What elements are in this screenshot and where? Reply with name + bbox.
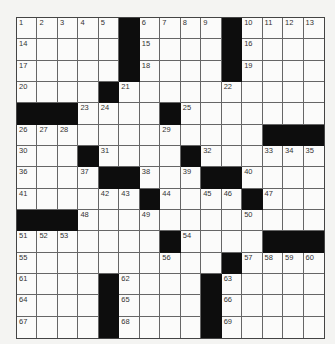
grid-cell[interactable]: 25 (181, 103, 201, 124)
grid-cell[interactable]: 24 (99, 103, 119, 124)
grid-cell[interactable]: 42 (99, 189, 119, 210)
grid-cell[interactable] (78, 317, 98, 338)
grid-cell[interactable] (140, 125, 160, 146)
grid-cell[interactable] (99, 61, 119, 82)
grid-cell[interactable] (140, 274, 160, 295)
grid-cell[interactable] (304, 210, 324, 231)
grid-cell[interactable] (37, 274, 57, 295)
grid-cell[interactable] (160, 82, 180, 103)
grid-cell[interactable]: 20 (17, 82, 37, 103)
grid-cell[interactable] (242, 82, 262, 103)
grid-cell[interactable] (99, 231, 119, 252)
grid-cell[interactable] (181, 189, 201, 210)
grid-cell[interactable]: 55 (17, 253, 37, 274)
grid-cell[interactable] (201, 82, 221, 103)
grid-cell[interactable] (58, 39, 78, 60)
grid-cell[interactable] (140, 231, 160, 252)
grid-cell[interactable]: 34 (283, 146, 303, 167)
grid-cell[interactable]: 69 (222, 317, 242, 338)
grid-cell[interactable] (263, 210, 283, 231)
grid-cell[interactable] (119, 146, 139, 167)
grid-cell[interactable] (160, 210, 180, 231)
grid-cell[interactable]: 49 (140, 210, 160, 231)
grid-cell[interactable] (242, 231, 262, 252)
grid-cell[interactable] (283, 103, 303, 124)
grid-cell[interactable]: 47 (263, 189, 283, 210)
grid-cell[interactable] (140, 82, 160, 103)
grid-cell[interactable] (283, 61, 303, 82)
grid-cell[interactable] (201, 61, 221, 82)
grid-cell[interactable]: 14 (17, 39, 37, 60)
grid-cell[interactable] (99, 210, 119, 231)
grid-cell[interactable] (78, 253, 98, 274)
grid-cell[interactable]: 54 (181, 231, 201, 252)
grid-cell[interactable] (37, 39, 57, 60)
grid-cell[interactable] (283, 274, 303, 295)
grid-cell[interactable] (181, 253, 201, 274)
grid-cell[interactable] (119, 103, 139, 124)
grid-cell[interactable]: 57 (242, 253, 262, 274)
grid-cell[interactable] (181, 274, 201, 295)
grid-cell[interactable]: 3 (58, 18, 78, 39)
grid-cell[interactable]: 35 (304, 146, 324, 167)
grid-cell[interactable] (263, 295, 283, 316)
grid-cell[interactable] (283, 210, 303, 231)
grid-cell[interactable]: 6 (140, 18, 160, 39)
grid-cell[interactable]: 13 (304, 18, 324, 39)
grid-cell[interactable] (304, 61, 324, 82)
grid-cell[interactable] (181, 125, 201, 146)
grid-cell[interactable] (37, 317, 57, 338)
grid-cell[interactable] (181, 82, 201, 103)
grid-cell[interactable] (160, 274, 180, 295)
grid-cell[interactable] (283, 317, 303, 338)
grid-cell[interactable] (242, 317, 262, 338)
grid-cell[interactable]: 11 (263, 18, 283, 39)
grid-cell[interactable]: 39 (181, 167, 201, 188)
grid-cell[interactable]: 23 (78, 103, 98, 124)
grid-cell[interactable] (304, 82, 324, 103)
grid-cell[interactable]: 46 (222, 189, 242, 210)
grid-cell[interactable] (283, 82, 303, 103)
grid-cell[interactable]: 48 (78, 210, 98, 231)
grid-cell[interactable] (37, 253, 57, 274)
grid-cell[interactable] (283, 189, 303, 210)
grid-cell[interactable] (263, 274, 283, 295)
grid-cell[interactable] (263, 82, 283, 103)
grid-cell[interactable]: 50 (242, 210, 262, 231)
grid-cell[interactable] (181, 39, 201, 60)
grid-cell[interactable] (242, 295, 262, 316)
grid-cell[interactable] (58, 82, 78, 103)
grid-cell[interactable] (160, 39, 180, 60)
grid-cell[interactable] (304, 189, 324, 210)
grid-cell[interactable]: 27 (37, 125, 57, 146)
grid-cell[interactable] (263, 39, 283, 60)
grid-cell[interactable] (283, 167, 303, 188)
grid-cell[interactable] (140, 295, 160, 316)
grid-cell[interactable]: 8 (181, 18, 201, 39)
grid-cell[interactable]: 52 (37, 231, 57, 252)
grid-cell[interactable]: 36 (17, 167, 37, 188)
grid-cell[interactable] (78, 274, 98, 295)
grid-cell[interactable] (181, 317, 201, 338)
grid-cell[interactable] (283, 39, 303, 60)
grid-cell[interactable] (222, 210, 242, 231)
grid-cell[interactable] (160, 146, 180, 167)
grid-cell[interactable] (242, 103, 262, 124)
grid-cell[interactable]: 18 (140, 61, 160, 82)
grid-cell[interactable] (242, 125, 262, 146)
grid-cell[interactable] (242, 274, 262, 295)
grid-cell[interactable]: 33 (263, 146, 283, 167)
grid-cell[interactable]: 65 (119, 295, 139, 316)
grid-cell[interactable] (58, 146, 78, 167)
grid-cell[interactable] (78, 295, 98, 316)
grid-cell[interactable]: 60 (304, 253, 324, 274)
grid-cell[interactable] (201, 103, 221, 124)
grid-cell[interactable] (263, 167, 283, 188)
grid-cell[interactable] (140, 146, 160, 167)
grid-cell[interactable] (160, 317, 180, 338)
grid-cell[interactable]: 53 (58, 231, 78, 252)
grid-cell[interactable]: 26 (17, 125, 37, 146)
grid-cell[interactable] (78, 39, 98, 60)
grid-cell[interactable] (160, 61, 180, 82)
grid-cell[interactable]: 40 (242, 167, 262, 188)
